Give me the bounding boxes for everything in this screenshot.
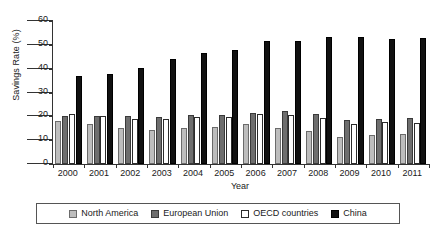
- y-axis-tick: 30: [27, 92, 53, 93]
- x-axis-tick-label: 2004: [177, 167, 208, 179]
- bar[interactable]: [313, 114, 319, 164]
- bar[interactable]: [69, 114, 75, 164]
- y-axis-tick-label: 0: [24, 157, 48, 168]
- y-axis-tick-label: 30: [24, 86, 48, 97]
- legend-label: China: [343, 208, 367, 219]
- bar-group: [366, 21, 397, 164]
- bar[interactable]: [181, 128, 187, 164]
- bar[interactable]: [288, 115, 294, 164]
- x-axis-tick-label: 2010: [365, 167, 396, 179]
- bar[interactable]: [257, 114, 263, 164]
- bar[interactable]: [188, 115, 194, 164]
- bar-group: [178, 21, 209, 164]
- bar[interactable]: [55, 121, 61, 164]
- bar[interactable]: [337, 137, 343, 164]
- chart-legend: North AmericaEuropean UnionOECD countrie…: [36, 203, 400, 224]
- x-axis-tick-label: 2011: [397, 167, 428, 179]
- bar[interactable]: [407, 118, 413, 164]
- bar[interactable]: [156, 117, 162, 164]
- bar[interactable]: [138, 68, 144, 164]
- legend-item[interactable]: OECD countries: [241, 208, 318, 219]
- bar[interactable]: [351, 124, 357, 164]
- y-axis-tick: 50: [27, 44, 53, 45]
- bar[interactable]: [326, 37, 332, 164]
- legend-label: OECD countries: [253, 208, 318, 219]
- bar[interactable]: [382, 122, 388, 164]
- bar[interactable]: [201, 53, 207, 164]
- y-axis-tick-label: 60: [24, 14, 48, 25]
- bar[interactable]: [232, 50, 238, 164]
- bar[interactable]: [320, 118, 326, 164]
- bar[interactable]: [282, 111, 288, 164]
- y-axis-tick-label: 40: [24, 62, 48, 73]
- bar-groups: [53, 21, 429, 164]
- bar-group: [398, 21, 429, 164]
- bar[interactable]: [275, 128, 281, 164]
- chart-figure: Savings Rate (%) 0102030405060 200020012…: [0, 0, 436, 237]
- legend-item[interactable]: European Union: [151, 208, 228, 219]
- bar-group: [116, 21, 147, 164]
- y-axis-tick: 60: [27, 20, 53, 21]
- x-axis-tick-label: 2008: [303, 167, 334, 179]
- bar-group: [304, 21, 335, 164]
- bar-group: [147, 21, 178, 164]
- bar[interactable]: [243, 124, 249, 164]
- bar[interactable]: [118, 128, 124, 164]
- bar[interactable]: [414, 123, 420, 164]
- x-axis-tick-label: 2003: [146, 167, 177, 179]
- bar[interactable]: [76, 76, 82, 164]
- y-axis-tick-label: 20: [24, 109, 48, 120]
- bar[interactable]: [295, 41, 301, 164]
- bar[interactable]: [420, 38, 426, 164]
- x-axis-tick-label: 2001: [83, 167, 114, 179]
- bar-group: [335, 21, 366, 164]
- bar-group: [84, 21, 115, 164]
- legend-swatch-icon: [151, 210, 159, 218]
- bar[interactable]: [94, 116, 100, 164]
- y-axis-tick-label: 10: [24, 133, 48, 144]
- legend-label: European Union: [163, 208, 228, 219]
- bar[interactable]: [344, 120, 350, 164]
- bar[interactable]: [87, 124, 93, 164]
- x-axis-title: Year: [52, 181, 428, 191]
- legend-item[interactable]: China: [331, 208, 367, 219]
- bar[interactable]: [62, 116, 68, 164]
- y-axis-tick: 10: [27, 139, 53, 140]
- bar[interactable]: [132, 119, 138, 164]
- bar[interactable]: [149, 130, 155, 164]
- y-axis-tick-label: 50: [24, 38, 48, 49]
- bar[interactable]: [389, 39, 395, 164]
- x-axis-tick-label: 2002: [115, 167, 146, 179]
- bar[interactable]: [400, 134, 406, 164]
- bar[interactable]: [163, 119, 169, 164]
- bar[interactable]: [219, 115, 225, 164]
- bar[interactable]: [125, 116, 131, 164]
- bar[interactable]: [107, 74, 113, 164]
- bar-group: [241, 21, 272, 164]
- bar[interactable]: [369, 135, 375, 164]
- bar[interactable]: [306, 131, 312, 164]
- bar[interactable]: [226, 117, 232, 164]
- bar[interactable]: [170, 59, 176, 164]
- x-axis-tick-mark: [429, 164, 430, 168]
- x-axis-tick-label: 2006: [240, 167, 271, 179]
- y-axis-tick: 20: [27, 115, 53, 116]
- legend-item[interactable]: North America: [69, 208, 138, 219]
- bar[interactable]: [250, 113, 256, 164]
- legend-swatch-icon: [69, 210, 77, 218]
- legend-swatch-icon: [331, 210, 339, 218]
- x-axis-tick-label: 2000: [52, 167, 83, 179]
- x-axis-tick-label: 2005: [209, 167, 240, 179]
- bar[interactable]: [376, 119, 382, 164]
- y-axis-tick: 40: [27, 68, 53, 69]
- y-axis-title: Savings Rate (%): [11, 0, 21, 135]
- legend-swatch-icon: [241, 210, 249, 218]
- bar[interactable]: [264, 41, 270, 164]
- bar[interactable]: [212, 127, 218, 164]
- bar[interactable]: [100, 116, 106, 164]
- x-axis-tick-label: 2007: [271, 167, 302, 179]
- x-axis-tick-labels: 2000200120022003200420052006200720082009…: [52, 167, 428, 179]
- bar[interactable]: [194, 117, 200, 164]
- bar[interactable]: [358, 37, 364, 164]
- x-axis-tick-label: 2009: [334, 167, 365, 179]
